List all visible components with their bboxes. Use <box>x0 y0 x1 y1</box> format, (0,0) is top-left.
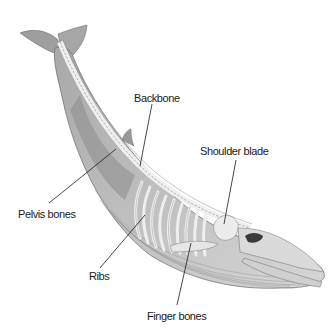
leader-line-shoulder-blade <box>224 160 236 224</box>
label-pelvis-bones: Pelvis bones <box>18 208 76 220</box>
label-backbone: Backbone <box>134 92 180 104</box>
label-shoulder-blade: Shoulder blade <box>200 145 268 157</box>
label-finger-bones: Finger bones <box>147 310 206 322</box>
tail-fluke <box>20 25 87 56</box>
label-ribs: Ribs <box>89 270 109 282</box>
whale-illustration <box>0 0 331 336</box>
shoulder-blade-bone <box>214 215 239 240</box>
leader-line-backbone <box>140 104 152 166</box>
